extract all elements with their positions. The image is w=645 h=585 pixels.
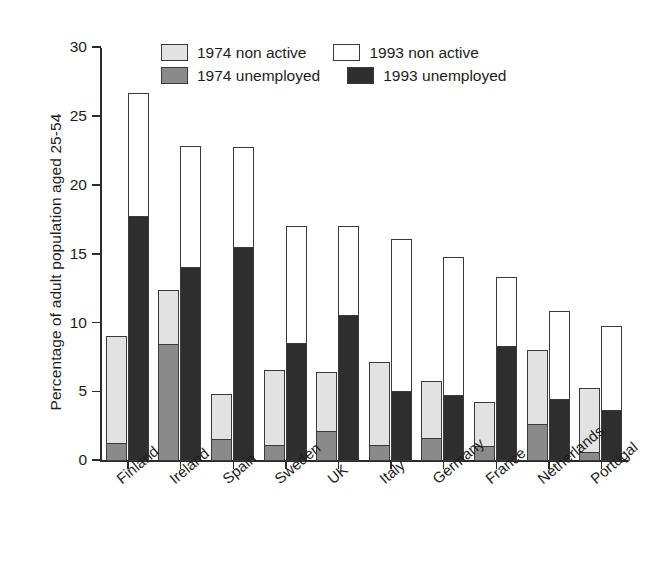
- legend-label: 1993 unemployed: [383, 67, 506, 85]
- bar-segment-unemployed: [370, 445, 389, 460]
- bar: [391, 239, 412, 461]
- bar-segment-unemployed: [392, 391, 411, 460]
- bar-segment-unemployed: [497, 346, 516, 460]
- bar-segment-unemployed: [212, 439, 231, 460]
- legend-label: 1974 non active: [197, 44, 306, 62]
- x-axis-label: UK: [324, 461, 351, 487]
- legend-item-1974-non-active: 1974 non active: [161, 44, 306, 62]
- legend-swatch-mid-gray-icon: [161, 67, 188, 84]
- legend-swatch-dark-icon: [347, 67, 374, 84]
- plot-area: 051015202530: [101, 48, 627, 461]
- legend-swatch-white-icon: [333, 44, 360, 61]
- legend-item-1993-non-active: 1993 non active: [333, 44, 478, 62]
- y-axis-tick-label: 20: [70, 176, 87, 194]
- bar-segment-unemployed: [317, 431, 336, 460]
- y-axis-tick: 15: [92, 253, 101, 255]
- bar-segment-unemployed: [181, 267, 200, 460]
- legend-label: 1974 unemployed: [197, 67, 320, 85]
- bar: [286, 226, 307, 461]
- y-axis-tick-label: 5: [78, 382, 87, 400]
- legend-label: 1993 non active: [369, 44, 478, 62]
- bar: [180, 146, 201, 461]
- bar-segment-unemployed: [159, 344, 178, 460]
- bar: [421, 381, 442, 461]
- bar-segment-unemployed: [287, 343, 306, 460]
- y-axis-tick: 0: [92, 459, 101, 461]
- bar-segment-unemployed: [129, 216, 148, 460]
- y-axis-tick-label: 0: [78, 451, 87, 469]
- y-axis-tick: 20: [92, 184, 101, 186]
- bar-segment-unemployed: [265, 445, 284, 460]
- bar: [527, 350, 548, 462]
- bar: [158, 290, 179, 461]
- bar: [549, 311, 570, 461]
- y-axis-tick: 10: [92, 322, 101, 324]
- legend-item-1993-unemployed: 1993 unemployed: [347, 67, 506, 85]
- legend-swatch-light-gray-icon: [161, 44, 188, 61]
- y-axis-line: [100, 48, 102, 462]
- bar: [338, 226, 359, 461]
- bar-segment-unemployed: [234, 247, 253, 460]
- bar: [601, 326, 622, 461]
- y-axis-tick-label: 30: [70, 38, 87, 56]
- legend-row: 1974 non active 1993 non active: [161, 41, 507, 64]
- bar: [369, 362, 390, 461]
- y-axis-tick: 30: [92, 46, 101, 48]
- legend-item-1974-unemployed: 1974 unemployed: [161, 67, 320, 85]
- bar: [106, 336, 127, 461]
- y-axis-title: Percentage of adult population aged 25-5…: [47, 52, 65, 472]
- bar-segment-unemployed: [422, 438, 441, 460]
- y-axis-tick-label: 25: [70, 107, 87, 125]
- bar-segment-unemployed: [528, 424, 547, 460]
- bar: [443, 257, 464, 461]
- y-axis-tick-label: 15: [70, 245, 87, 263]
- bar: [264, 370, 285, 461]
- bar: [211, 394, 232, 461]
- legend-row: 1974 unemployed 1993 unemployed: [161, 64, 507, 87]
- y-axis-tick: 5: [92, 391, 101, 393]
- y-axis-tick: 25: [92, 115, 101, 117]
- bar: [128, 93, 149, 461]
- bar: [233, 147, 254, 461]
- y-axis-tick-label: 10: [70, 314, 87, 332]
- bar: [496, 277, 517, 461]
- bar-segment-unemployed: [339, 315, 358, 460]
- bar-segment-unemployed: [107, 443, 126, 460]
- chart-legend: 1974 non active 1993 non active 1974 une…: [161, 41, 507, 87]
- bar-chart: Percentage of adult population aged 25-5…: [0, 0, 645, 585]
